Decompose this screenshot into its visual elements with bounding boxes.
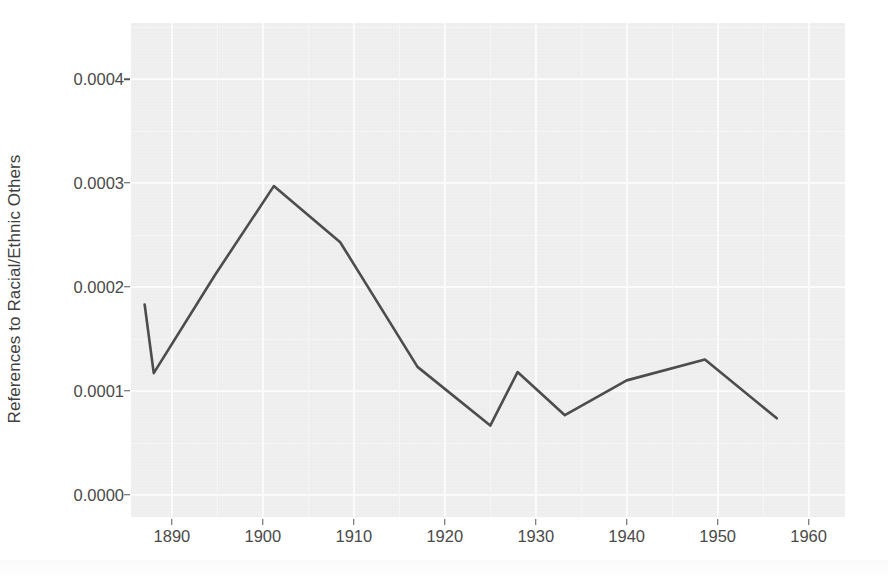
x-tick-mark (171, 519, 173, 525)
y-tick-mark (124, 390, 130, 392)
y-tick-mark (124, 182, 130, 184)
x-tick-label: 1930 (517, 527, 554, 546)
x-tick-label: 1890 (154, 527, 191, 546)
x-tick-label: 1920 (426, 527, 463, 546)
x-tick-mark (717, 519, 719, 525)
y-tick-mark (124, 494, 130, 496)
x-tick-label: 1950 (699, 527, 736, 546)
x-tick-label: 1900 (245, 527, 282, 546)
x-tick-mark (353, 519, 355, 525)
x-tick-label: 1940 (608, 527, 645, 546)
y-tick-mark (124, 286, 130, 288)
x-tick-label: 1910 (335, 527, 372, 546)
x-tick-mark (444, 519, 446, 525)
x-tick-mark (535, 519, 537, 525)
chart-figure: References to Racial/Ethnic Others 0.000… (0, 0, 888, 578)
x-tick-mark (262, 519, 264, 525)
x-axis-tick-labels: 18901900191019201930194019501960 (0, 0, 888, 578)
x-tick-mark (808, 519, 810, 525)
x-tick-label: 1960 (790, 527, 827, 546)
y-tick-mark (124, 78, 130, 80)
x-tick-mark (626, 519, 628, 525)
